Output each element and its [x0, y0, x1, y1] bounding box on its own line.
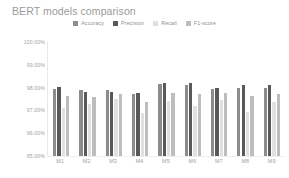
- bar-group-m3: [106, 42, 122, 156]
- x-axis-tick-label-m9: M9: [259, 158, 285, 172]
- bar-accuracy-m5[interactable]: [158, 84, 161, 157]
- bar-f1-score-m6[interactable]: [198, 94, 201, 156]
- bar-group-m8: [237, 42, 253, 156]
- plot-area: [47, 42, 285, 156]
- bar-recall-m1[interactable]: [62, 108, 65, 156]
- x-axis-tick-label-m5: M5: [153, 158, 179, 172]
- bar-accuracy-m6[interactable]: [185, 85, 188, 156]
- bar-group-m2: [79, 42, 95, 156]
- bar-recall-m5[interactable]: [167, 101, 170, 156]
- bar-accuracy-m2[interactable]: [79, 90, 82, 156]
- y-axis-tick-label: 96.00%: [27, 130, 45, 136]
- bar-precision-m3[interactable]: [110, 92, 113, 156]
- bar-f1-score-m1[interactable]: [66, 96, 69, 156]
- bar-group-m1: [53, 42, 69, 156]
- bar-f1-score-m9[interactable]: [277, 94, 280, 156]
- x-axis-tick-label-m3: M3: [100, 158, 126, 172]
- plot-wrapper: 100.00%99.00%98.00%97.00%96.00%95.00% M1…: [0, 0, 289, 178]
- x-axis-tick-label-m7: M7: [206, 158, 232, 172]
- bar-accuracy-m8[interactable]: [237, 88, 240, 156]
- bar-f1-score-m4[interactable]: [145, 102, 148, 156]
- bar-precision-m8[interactable]: [242, 85, 245, 156]
- bar-precision-m7[interactable]: [215, 88, 218, 156]
- bar-recall-m7[interactable]: [220, 100, 223, 156]
- bar-group-m4: [132, 42, 148, 156]
- chart-container: BERT models comparison AccuracyPrecision…: [0, 0, 289, 178]
- bar-recall-m3[interactable]: [114, 99, 117, 156]
- bar-precision-m2[interactable]: [84, 92, 87, 156]
- y-axis-tick-label: 99.00%: [27, 62, 45, 68]
- bar-accuracy-m7[interactable]: [211, 89, 214, 156]
- bar-precision-m4[interactable]: [136, 93, 139, 156]
- bar-accuracy-m4[interactable]: [132, 94, 135, 156]
- bar-group-m9: [264, 42, 280, 156]
- bar-group-m6: [185, 42, 201, 156]
- bar-f1-score-m8[interactable]: [250, 96, 253, 156]
- x-axis-tick-label-m6: M6: [179, 158, 205, 172]
- x-axis-tick-label-m2: M2: [73, 158, 99, 172]
- x-axis: M1M2M3M4M5M6M7M8M9: [47, 158, 285, 172]
- bar-precision-m5[interactable]: [163, 83, 166, 156]
- bar-recall-m6[interactable]: [193, 106, 196, 156]
- bar-precision-m1[interactable]: [57, 87, 60, 156]
- bar-f1-score-m7[interactable]: [224, 93, 227, 156]
- bar-accuracy-m9[interactable]: [264, 88, 267, 156]
- y-axis-tick-label: 95.00%: [27, 153, 45, 159]
- y-axis: 100.00%99.00%98.00%97.00%96.00%95.00%: [11, 38, 45, 160]
- bar-group-m7: [211, 42, 227, 156]
- bar-precision-m9[interactable]: [268, 85, 271, 156]
- bar-precision-m6[interactable]: [189, 83, 192, 156]
- bar-recall-m2[interactable]: [88, 104, 91, 156]
- bar-recall-m8[interactable]: [246, 112, 249, 156]
- bar-accuracy-m3[interactable]: [106, 90, 109, 156]
- y-axis-tick-label: 97.00%: [27, 107, 45, 113]
- bar-f1-score-m5[interactable]: [171, 93, 174, 156]
- y-axis-tick-label: 100.00%: [24, 39, 45, 45]
- x-axis-tick-label-m4: M4: [126, 158, 152, 172]
- x-axis-tick-label-m1: M1: [47, 158, 73, 172]
- bar-recall-m4[interactable]: [141, 113, 144, 156]
- bar-f1-score-m3[interactable]: [119, 94, 122, 156]
- bar-recall-m9[interactable]: [272, 102, 275, 156]
- x-axis-baseline: [47, 156, 285, 157]
- bar-group-m5: [158, 42, 174, 156]
- bar-groups: [48, 42, 285, 156]
- bar-accuracy-m1[interactable]: [53, 89, 56, 156]
- y-axis-tick-label: 98.00%: [27, 85, 45, 91]
- x-axis-tick-label-m8: M8: [232, 158, 258, 172]
- bar-f1-score-m2[interactable]: [92, 97, 95, 156]
